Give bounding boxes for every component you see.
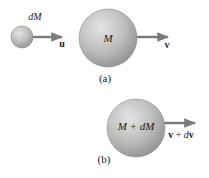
large-mass-label: M bbox=[102, 32, 113, 44]
panel-b: M + dM v + dv (b) bbox=[98, 99, 195, 166]
velocity-v-plus-dv-label: v + dv bbox=[168, 129, 194, 140]
plus-sign: + bbox=[173, 129, 184, 140]
momentum-diagram: dM u M v (a) M + dM v + dv (b) bbox=[0, 0, 209, 178]
caption-a: (a) bbox=[99, 72, 112, 85]
velocity-v-label: v bbox=[165, 39, 170, 50]
velocity-u-label: u bbox=[59, 38, 65, 49]
small-mass-label: dM bbox=[28, 11, 42, 22]
caption-b: (b) bbox=[98, 153, 111, 166]
v-symbol-2: v bbox=[189, 129, 194, 140]
combined-mass-label: M + dM bbox=[117, 120, 156, 132]
panel-a: dM u M v (a) bbox=[11, 9, 170, 85]
small-mass-sphere bbox=[11, 26, 33, 48]
